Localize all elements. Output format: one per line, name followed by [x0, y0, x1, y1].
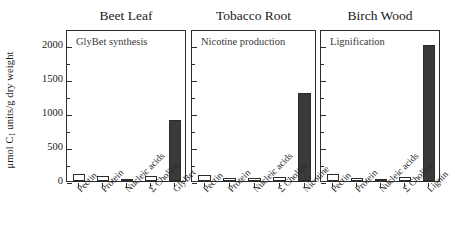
- y-axis-title-subscript: 1: [8, 132, 17, 136]
- x-axis-tick-mark: [229, 183, 230, 187]
- x-axis-tick-mark: [279, 183, 280, 187]
- plot-area: [192, 31, 315, 181]
- x-axis-tick-mark: [356, 183, 357, 187]
- y-axis-title-tail: units/g dry weight: [4, 52, 15, 133]
- y-axis-tick-label: 2000: [42, 39, 63, 50]
- plot-area: [67, 31, 185, 181]
- x-axis-tick-mark: [174, 183, 175, 187]
- x-axis-tick-mark: [102, 183, 103, 187]
- plot-area: [321, 31, 439, 181]
- y-axis-tick-label: 500: [47, 141, 63, 152]
- x-axis-tick-mark: [332, 183, 333, 187]
- y-axis-title-main: μmol C: [4, 136, 15, 168]
- chart-panel: Birch WoodLignification: [320, 30, 440, 182]
- x-axis-tick-mark: [204, 183, 205, 187]
- y-axis-tick-label: 1000: [42, 107, 63, 118]
- figure-root: μmol C1 units/g dry weight 0500100015002…: [0, 0, 455, 238]
- chart-panel: Beet LeafGlyBet synthesis: [66, 30, 186, 182]
- panel-title: Tobacco Root: [192, 8, 315, 24]
- x-axis-tick-mark: [254, 183, 255, 187]
- x-axis-tick-mark: [428, 183, 429, 187]
- x-axis-tick-mark: [126, 183, 127, 187]
- y-axis-title-wrap: μmol C1 units/g dry weight: [0, 34, 18, 186]
- y-axis: 0500100015002000: [18, 30, 66, 190]
- panel-title: Beet Leaf: [67, 8, 185, 24]
- x-axis-labels: PectinProteinNucleic acidsΣ CholineGlyBe…: [0, 183, 455, 238]
- x-axis-tick-mark: [78, 183, 79, 187]
- y-axis-tick-label: 1500: [42, 73, 63, 84]
- x-axis-tick-mark: [380, 183, 381, 187]
- x-axis-tick-mark: [304, 183, 305, 187]
- x-axis-tick-mark: [404, 183, 405, 187]
- x-axis-tick-mark: [150, 183, 151, 187]
- y-axis-title: μmol C1 units/g dry weight: [4, 52, 15, 169]
- panel-title: Birch Wood: [321, 8, 439, 24]
- chart-panel: Tobacco RootNicotine production: [191, 30, 316, 182]
